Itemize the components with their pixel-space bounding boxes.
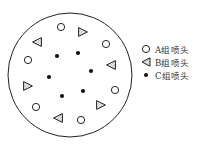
nozzle-a-marker bbox=[77, 116, 84, 123]
legend-label-a: A组喷头 bbox=[155, 43, 189, 55]
legend-label-b: B组喷头 bbox=[155, 56, 189, 68]
nozzle-c-marker bbox=[47, 75, 51, 79]
nozzle-c-marker bbox=[81, 89, 85, 93]
nozzle-a-marker bbox=[32, 103, 39, 110]
legend-item-b: B组喷头 bbox=[140, 55, 189, 68]
nozzle-c-marker bbox=[89, 69, 93, 73]
nozzle-group-a bbox=[24, 23, 118, 123]
nozzle-b-marker bbox=[54, 114, 63, 123]
open-circle-icon bbox=[140, 43, 152, 55]
legend-item-a: A组喷头 bbox=[140, 42, 189, 55]
boundary-circle bbox=[8, 13, 132, 137]
nozzle-b-marker bbox=[24, 82, 33, 91]
legend: A组喷头 B组喷头 C组喷头 bbox=[140, 42, 189, 81]
nozzle-group-c bbox=[47, 51, 93, 98]
nozzle-c-marker bbox=[60, 94, 64, 98]
nozzle-c-marker bbox=[76, 51, 80, 55]
nozzle-a-marker bbox=[102, 40, 109, 47]
nozzle-layout-diagram bbox=[0, 0, 140, 150]
nozzle-b-marker bbox=[79, 28, 88, 37]
nozzle-a-marker bbox=[24, 56, 31, 63]
hatched-triangle-icon bbox=[140, 56, 152, 68]
nozzle-b-marker bbox=[33, 38, 42, 47]
nozzle-b-marker bbox=[97, 101, 106, 110]
legend-label-c: C组喷头 bbox=[155, 69, 189, 81]
boundary-circle-outline bbox=[8, 13, 132, 137]
nozzle-b-marker bbox=[107, 61, 116, 70]
filled-dot-icon bbox=[140, 69, 152, 81]
nozzle-a-marker bbox=[57, 23, 64, 30]
nozzle-c-marker bbox=[55, 54, 59, 58]
legend-item-c: C组喷头 bbox=[140, 68, 189, 81]
nozzle-a-marker bbox=[111, 86, 118, 93]
